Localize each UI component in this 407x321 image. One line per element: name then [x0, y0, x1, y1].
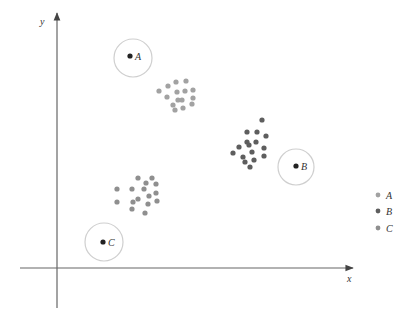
cluster-a-point — [179, 97, 184, 102]
cluster-b-point — [253, 139, 258, 144]
legend-c-swatch — [376, 226, 381, 231]
cluster-c-point — [145, 201, 150, 206]
cluster-b-point — [261, 145, 266, 150]
cluster-a-point — [190, 87, 195, 92]
cluster-a-point — [174, 89, 179, 94]
cluster-b-point — [236, 144, 241, 149]
cluster-c-point — [153, 190, 158, 195]
centroid-a-dot — [127, 53, 132, 58]
cluster-b-point — [230, 150, 235, 155]
cluster-a-point — [164, 94, 169, 99]
legend-a-label: A — [385, 190, 393, 201]
centroids: ABC — [100, 51, 307, 248]
cluster-c-point — [130, 199, 135, 204]
cluster-c-point — [153, 181, 158, 186]
cluster-b-point — [254, 129, 259, 134]
cluster-b-point — [247, 164, 252, 169]
cluster-b-point — [261, 153, 266, 158]
cluster-points — [114, 78, 268, 215]
legend-b-swatch — [376, 209, 381, 214]
cluster-a-point — [173, 79, 178, 84]
centroid-c-dot — [100, 239, 105, 244]
cluster-c-point — [129, 206, 134, 211]
cluster-c-point — [135, 175, 140, 180]
cluster-a-point — [180, 105, 185, 110]
legend-a-swatch — [376, 193, 381, 198]
cluster-a-point — [172, 107, 177, 112]
cluster-c-point — [149, 175, 154, 180]
cluster-c-point — [142, 210, 147, 215]
centroid-c-label: C — [108, 237, 115, 248]
y-axis-label: y — [39, 16, 45, 27]
cluster-b-point — [259, 117, 264, 122]
cluster-b-point — [244, 129, 249, 134]
legend: ABC — [376, 190, 393, 234]
cluster-c-point — [146, 193, 151, 198]
cluster-c-point — [141, 186, 146, 191]
cluster-b-point — [246, 142, 251, 147]
cluster-a-point — [190, 95, 195, 100]
legend-c-label: C — [386, 223, 393, 234]
cluster-c-point — [114, 199, 119, 204]
cluster-c-point — [129, 186, 134, 191]
cluster-a-point — [156, 88, 161, 93]
x-axis-label: x — [346, 273, 352, 284]
cluster-a-point — [165, 83, 170, 88]
centroid-circles — [85, 39, 314, 261]
cluster-b-point — [242, 159, 247, 164]
cluster-a-point — [189, 101, 194, 106]
cluster-c-point — [154, 198, 159, 203]
cluster-b-point — [249, 149, 254, 154]
cluster-c-point — [114, 186, 119, 191]
kmeans-diagram: x y ABC ABC — [0, 0, 407, 321]
cluster-b-point — [251, 157, 256, 162]
legend-b-label: B — [386, 206, 392, 217]
cluster-c-point — [135, 196, 140, 201]
centroid-b-label: B — [301, 161, 307, 172]
cluster-a-point — [183, 78, 188, 83]
cluster-a-point — [182, 88, 187, 93]
cluster-c-point — [143, 180, 148, 185]
centroid-b-dot — [293, 163, 298, 168]
centroid-a-circle — [114, 39, 152, 77]
cluster-a-point — [170, 102, 175, 107]
centroid-a-label: A — [134, 51, 142, 62]
cluster-b-point — [240, 154, 245, 159]
cluster-b-point — [263, 133, 268, 138]
